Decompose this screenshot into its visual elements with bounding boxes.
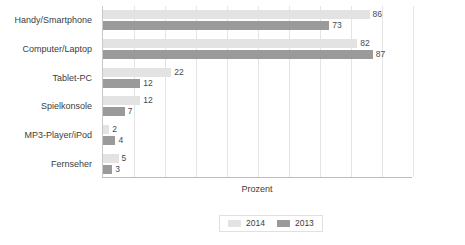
legend-item-2013[interactable]: 2013 [277,219,314,228]
bar-line: 4 [103,136,412,145]
bar-2013[interactable] [103,50,373,59]
gridline [413,6,414,177]
bar-value-label: 86 [373,10,382,19]
bar-2014[interactable] [103,10,370,19]
bar-2014[interactable] [103,96,140,105]
bar-group: 24 [103,121,412,150]
chart-legend: 2014 2013 [219,215,323,232]
bar-group: 8673 [103,6,412,35]
plot-area: 8673828722121272453 [102,6,412,178]
legend-swatch-2013 [277,220,290,227]
bar-group: 53 [103,149,412,178]
y-axis-label: Handy/Smartphone [0,15,92,25]
y-axis-label: Computer/Laptop [0,44,92,54]
bar-line: 5 [103,154,412,163]
bar-value-label: 7 [128,107,133,116]
bar-value-label: 73 [332,21,341,30]
bar-line: 7 [103,107,412,116]
bar-line: 87 [103,50,412,59]
bar-value-label: 22 [174,68,183,77]
bar-2013[interactable] [103,165,112,174]
x-axis-title: Prozent [102,184,412,194]
bar-2013[interactable] [103,136,115,145]
legend-label-2014: 2014 [246,219,265,228]
bar-value-label: 87 [376,50,385,59]
y-axis-label: Fernseher [0,159,92,169]
bar-2013[interactable] [103,21,329,30]
bar-2014[interactable] [103,154,119,163]
bar-line: 12 [103,79,412,88]
bar-line: 2 [103,125,412,134]
bar-line: 86 [103,10,412,19]
bar-2014[interactable] [103,125,109,134]
bar-value-label: 4 [118,136,123,145]
bar-value-label: 12 [143,79,152,88]
legend-item-2014[interactable]: 2014 [228,219,265,228]
bar-2013[interactable] [103,107,125,116]
bar-group: 127 [103,92,412,121]
y-axis-label: MP3-Player/iPod [0,130,92,140]
bar-rows: 8673828722121272453 [103,6,412,177]
bar-value-label: 3 [115,165,120,174]
bar-value-label: 12 [143,96,152,105]
bar-line: 12 [103,96,412,105]
bar-value-label: 82 [360,39,369,48]
bar-value-label: 2 [112,125,117,134]
bar-2014[interactable] [103,68,171,77]
legend-label-2013: 2013 [295,219,314,228]
bar-chart: Handy/SmartphoneComputer/LaptopTablet-PC… [0,0,465,245]
bar-line: 22 [103,68,412,77]
bar-line: 3 [103,165,412,174]
bar-group: 8287 [103,35,412,64]
bar-value-label: 5 [122,154,127,163]
bar-line: 82 [103,39,412,48]
y-axis-labels: Handy/SmartphoneComputer/LaptopTablet-PC… [0,6,98,178]
bar-line: 73 [103,21,412,30]
y-axis-label: Tablet-PC [0,73,92,83]
bar-group: 2212 [103,63,412,92]
bar-2014[interactable] [103,39,357,48]
legend-swatch-2014 [228,220,241,227]
bar-2013[interactable] [103,79,140,88]
y-axis-label: Spielkonsole [0,101,92,111]
